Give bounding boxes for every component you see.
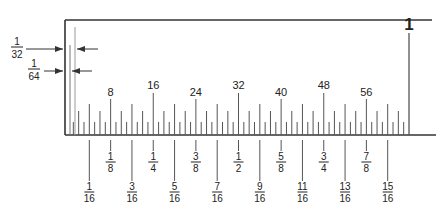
top-label-16: 16	[147, 79, 159, 91]
svg-text:8: 8	[193, 163, 199, 174]
svg-text:2: 2	[236, 163, 242, 174]
fraction-3-8: 38	[191, 151, 201, 174]
top-label-56: 56	[360, 86, 372, 98]
svg-text:16: 16	[212, 193, 224, 204]
fraction-1-2: 12	[234, 151, 244, 174]
fraction-3-4: 34	[319, 151, 329, 174]
top-numeric-labels: 81624324048561	[108, 15, 414, 98]
svg-text:4: 4	[150, 163, 156, 174]
top-label-24: 24	[190, 86, 202, 98]
fraction-5-8: 58	[276, 151, 286, 174]
ruler-svg: 81624324048561 1814381258347811631651671…	[0, 0, 445, 212]
svg-text:9: 9	[257, 181, 263, 192]
svg-text:11: 11	[297, 181, 308, 192]
svg-text:16: 16	[84, 193, 96, 204]
svg-text:1: 1	[236, 151, 242, 162]
svg-text:16: 16	[297, 193, 309, 204]
top-label-8: 8	[108, 86, 114, 98]
svg-text:15: 15	[382, 181, 394, 192]
fraction-15-16: 1516	[382, 181, 394, 204]
fraction-3-16: 316	[126, 181, 138, 204]
callout-1-64: 164	[28, 58, 92, 82]
fraction-1-8: 18	[106, 151, 116, 174]
svg-text:1: 1	[150, 151, 156, 162]
svg-text:8: 8	[278, 163, 284, 174]
svg-text:3: 3	[321, 151, 327, 162]
fraction-labels: 1814381258347811631651671691611161316151…	[84, 140, 394, 204]
callout-1-32: 132	[11, 36, 98, 60]
svg-text:16: 16	[126, 193, 138, 204]
fraction-7-8: 78	[361, 151, 371, 174]
spacing-callouts: 132164	[11, 36, 98, 82]
fraction-11-16: 1116	[297, 181, 309, 204]
top-label-40: 40	[275, 86, 287, 98]
svg-text:3: 3	[129, 181, 135, 192]
svg-text:8: 8	[108, 163, 114, 174]
svg-text:16: 16	[382, 193, 394, 204]
svg-text:1: 1	[14, 36, 20, 47]
svg-text:7: 7	[364, 151, 370, 162]
svg-text:1: 1	[108, 151, 114, 162]
svg-text:13: 13	[340, 181, 352, 192]
svg-text:16: 16	[340, 193, 352, 204]
svg-text:1: 1	[31, 58, 37, 69]
fraction-5-16: 516	[169, 181, 181, 204]
fraction-7-16: 716	[212, 181, 224, 204]
fraction-1-4: 14	[148, 151, 158, 174]
svg-text:3: 3	[193, 151, 199, 162]
inch-label: 1	[404, 15, 413, 34]
svg-text:8: 8	[364, 163, 370, 174]
svg-text:7: 7	[214, 181, 220, 192]
ruler-diagram: 81624324048561 1814381258347811631651671…	[0, 0, 445, 212]
top-label-32: 32	[232, 79, 244, 91]
svg-text:32: 32	[11, 49, 23, 60]
svg-text:4: 4	[321, 163, 327, 174]
svg-text:64: 64	[28, 71, 40, 82]
svg-text:16: 16	[169, 193, 181, 204]
fraction-9-16: 916	[254, 181, 266, 204]
svg-text:1: 1	[87, 181, 93, 192]
fraction-1-16: 116	[84, 181, 96, 204]
svg-text:5: 5	[278, 151, 284, 162]
ruler-frame	[65, 20, 436, 135]
top-label-48: 48	[318, 79, 330, 91]
svg-text:16: 16	[254, 193, 266, 204]
svg-text:5: 5	[172, 181, 178, 192]
fraction-13-16: 1316	[340, 181, 352, 204]
